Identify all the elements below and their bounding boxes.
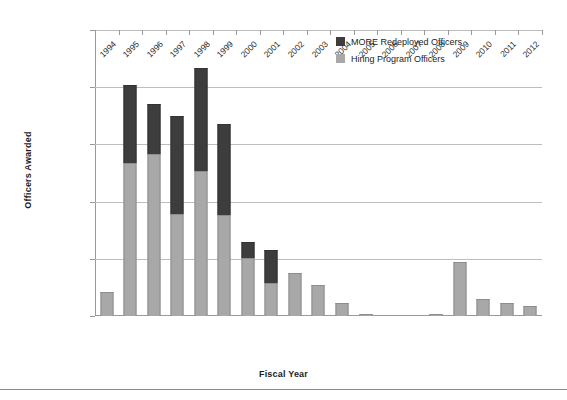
x-tick-mark (283, 30, 284, 35)
x-tick-mark (119, 30, 120, 35)
bar-segment-hiring-program-officers[interactable] (336, 303, 349, 316)
bar-slot (495, 30, 519, 316)
bar-slot (213, 30, 237, 316)
y-axis-title: Officers Awarded (23, 80, 33, 260)
x-tick-mark (518, 30, 519, 35)
bar-stack[interactable] (147, 104, 160, 316)
y-tick-mark (90, 316, 95, 317)
chart-figure: Officers Awarded -5,00010,00015,00020,00… (0, 0, 567, 400)
bar-stack[interactable] (265, 250, 278, 316)
bar-segment-hiring-program-officers[interactable] (288, 273, 301, 316)
bar-slot (142, 30, 166, 316)
bar-stack[interactable] (524, 306, 537, 316)
bar-slot (401, 30, 425, 316)
bar-segment-hiring-program-officers[interactable] (124, 163, 137, 316)
bar-segment-more-redeployed-officers[interactable] (147, 104, 160, 153)
bar-slot (307, 30, 331, 316)
bar-slot (283, 30, 307, 316)
bar-stack[interactable] (124, 85, 137, 316)
x-tick-mark (542, 30, 543, 35)
x-tick-mark (189, 30, 190, 35)
legend-swatch-icon (336, 54, 345, 63)
x-axis-title: Fiscal Year (0, 369, 567, 379)
x-tick-mark (495, 30, 496, 35)
bar-segment-hiring-program-officers[interactable] (453, 262, 466, 316)
legend-item[interactable]: Hiring Program Officers (336, 50, 462, 67)
bar-segment-hiring-program-officers[interactable] (100, 292, 113, 316)
bar-slot (448, 30, 472, 316)
legend-label: Hiring Program Officers (351, 54, 445, 64)
bar-segment-hiring-program-officers[interactable] (171, 214, 184, 316)
bar-segment-hiring-program-officers[interactable] (524, 306, 537, 316)
x-tick-mark (166, 30, 167, 35)
bar-segment-hiring-program-officers[interactable] (194, 171, 207, 316)
bottom-divider (0, 389, 567, 390)
bar-slot (95, 30, 119, 316)
bar-slot (260, 30, 284, 316)
bar-stack[interactable] (430, 314, 443, 316)
bar-slot (330, 30, 354, 316)
bar-segment-hiring-program-officers[interactable] (477, 299, 490, 316)
bar-stack[interactable] (453, 262, 466, 316)
bar-segment-hiring-program-officers[interactable] (359, 314, 372, 316)
x-tick-mark (307, 30, 308, 35)
bar-segment-hiring-program-officers[interactable] (147, 154, 160, 316)
x-tick-mark (95, 30, 96, 35)
bar-slot (424, 30, 448, 316)
bar-segment-hiring-program-officers[interactable] (241, 258, 254, 316)
x-tick-mark (330, 30, 331, 35)
bar-stack[interactable] (477, 299, 490, 316)
bar-stack[interactable] (218, 124, 231, 316)
bar-stack[interactable] (500, 303, 513, 316)
x-tick-mark (236, 30, 237, 35)
x-tick-mark (142, 30, 143, 35)
bar-slot (236, 30, 260, 316)
bar-slot (119, 30, 143, 316)
bar-segment-more-redeployed-officers[interactable] (124, 85, 137, 163)
bar-slot (189, 30, 213, 316)
x-tick-mark (471, 30, 472, 35)
bar-slot (354, 30, 378, 316)
bar-stack[interactable] (100, 292, 113, 316)
legend-swatch-icon (336, 37, 345, 46)
bar-stack[interactable] (194, 68, 207, 316)
bar-stack[interactable] (312, 285, 325, 316)
bar-stack[interactable] (359, 314, 372, 316)
bar-stack[interactable] (241, 242, 254, 316)
bar-segment-hiring-program-officers[interactable] (265, 283, 278, 316)
legend-item[interactable]: MORE Redeployed Officers (336, 33, 462, 50)
x-tick-mark (213, 30, 214, 35)
plot-area: -5,00010,00015,00020,00025,000 199419951… (95, 30, 542, 316)
legend-label: MORE Redeployed Officers (351, 37, 462, 47)
bar-segment-more-redeployed-officers[interactable] (171, 116, 184, 214)
bar-segment-more-redeployed-officers[interactable] (265, 250, 278, 283)
bar-slot (377, 30, 401, 316)
bar-segment-more-redeployed-officers[interactable] (194, 68, 207, 171)
bar-series-layer (95, 30, 542, 316)
x-tick-mark (260, 30, 261, 35)
bar-slot (518, 30, 542, 316)
bar-stack[interactable] (336, 303, 349, 316)
bar-segment-more-redeployed-officers[interactable] (218, 124, 231, 216)
bar-segment-hiring-program-officers[interactable] (218, 215, 231, 316)
chart-legend: MORE Redeployed OfficersHiring Program O… (336, 33, 462, 67)
bar-stack[interactable] (171, 116, 184, 316)
bar-slot (166, 30, 190, 316)
bar-slot (471, 30, 495, 316)
bar-stack[interactable] (288, 273, 301, 316)
bar-segment-hiring-program-officers[interactable] (500, 303, 513, 316)
bar-segment-hiring-program-officers[interactable] (430, 314, 443, 316)
bar-segment-more-redeployed-officers[interactable] (241, 242, 254, 258)
bar-segment-hiring-program-officers[interactable] (312, 285, 325, 316)
